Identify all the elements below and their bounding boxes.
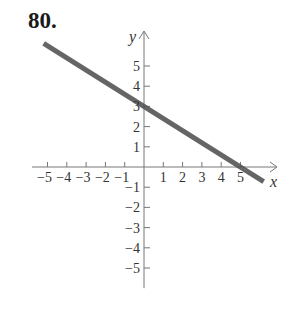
y-tick-label: 3	[133, 99, 140, 114]
series-line	[44, 43, 264, 181]
y-tick-label: −1	[125, 180, 140, 195]
y-tick-label: 4	[133, 79, 140, 94]
x-tick-label: 5	[237, 170, 244, 185]
x-tick-label: −5	[37, 170, 52, 185]
x-tick-label: −3	[76, 170, 91, 185]
x-tick-label: −4	[56, 170, 71, 185]
data-line	[44, 43, 264, 181]
y-tick-label: −2	[125, 200, 140, 215]
x-axis-label: x	[269, 173, 277, 190]
y-tick-label: −3	[125, 221, 140, 236]
x-tick-label: 3	[198, 170, 205, 185]
y-axis-label: y	[127, 28, 137, 46]
x-tick-label: 1	[160, 170, 167, 185]
y-tick-label: 2	[133, 120, 140, 135]
y-tick-label: −4	[125, 241, 140, 256]
y-tick-label: 5	[133, 59, 140, 74]
line-graph: −5−4−3−2−112345−5−4−3−2−112345xy	[0, 0, 296, 311]
y-tick-label: −5	[125, 261, 140, 276]
x-tick-label: 2	[179, 170, 186, 185]
x-tick-label: 4	[218, 170, 225, 185]
axis-labels: −5−4−3−2−112345−5−4−3−2−112345xy	[37, 28, 277, 276]
axes	[32, 31, 277, 288]
y-tick-label: 1	[133, 140, 140, 155]
x-tick-label: −2	[95, 170, 110, 185]
